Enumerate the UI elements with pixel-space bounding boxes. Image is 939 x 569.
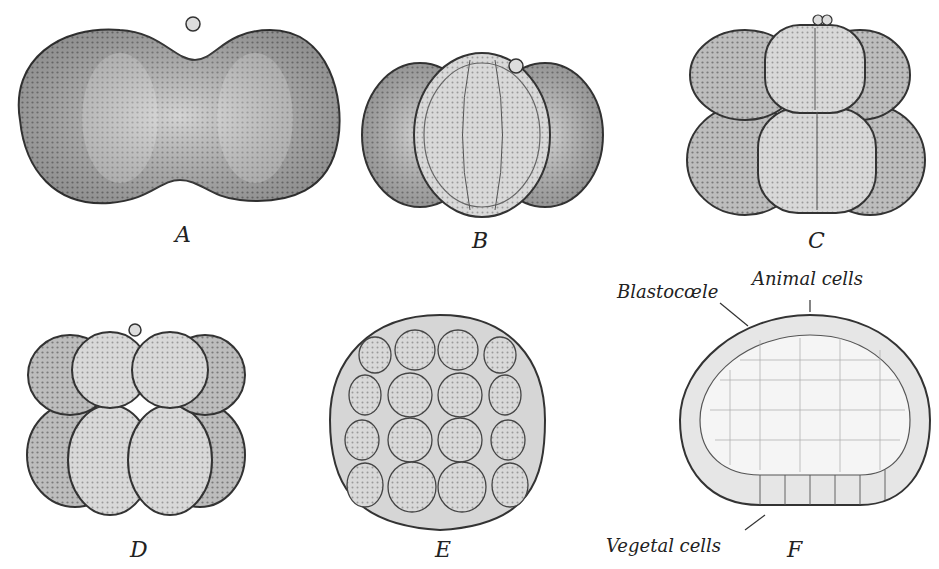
- panel-c-drawing: [687, 15, 925, 215]
- panel-f-drawing: [680, 300, 930, 530]
- annotation-vegetal-cells: Vegetal cells: [606, 535, 721, 556]
- panel-label-e: E: [435, 537, 451, 562]
- annotation-blastocoele: Blastocœle: [617, 281, 718, 302]
- panel-label-c: C: [808, 228, 825, 253]
- panel-d-drawing: [27, 324, 245, 515]
- panel-label-d: D: [130, 537, 148, 562]
- panel-a-drawing: [19, 17, 340, 203]
- annotation-animal-cells: Animal cells: [752, 268, 863, 289]
- panel-label-f: F: [787, 537, 802, 562]
- panel-label-a: A: [175, 222, 191, 247]
- panel-label-b: B: [472, 228, 488, 253]
- panel-e-drawing: [330, 315, 545, 530]
- panel-b-drawing: [362, 53, 603, 217]
